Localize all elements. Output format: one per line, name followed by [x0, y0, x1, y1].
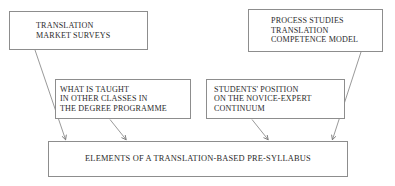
node-process-studies[interactable]: PROCESS STUDIES TRANSLATION COMPETENCE M… [248, 9, 383, 52]
node-line: IN OTHER CLASSES IN [60, 94, 190, 104]
clipped-caption-strip [0, 0, 395, 5]
node-pre-syllabus[interactable]: ELEMENTS OF A TRANSLATION-BASED PRE-SYLL… [48, 141, 348, 177]
node-translation-market-surveys[interactable]: TRANSLATION MARKET SURVEYS [9, 11, 148, 50]
node-line: CONTINUUM [214, 104, 344, 114]
connector-what-is-taught-to-pre-syllabus [110, 120, 126, 140]
node-line: ELEMENTS OF A TRANSLATION-BASED PRE-SYLL… [85, 154, 311, 164]
node-students-position[interactable]: STUDENTS' POSITION ON THE NOVICE-EXPERT … [206, 79, 345, 119]
node-line: TRANSLATION [36, 21, 147, 31]
connector-students-position-to-pre-syllabus [252, 120, 268, 140]
diagram-canvas: TRANSLATION MARKET SURVEYS PROCESS STUDI… [0, 0, 395, 186]
node-line: TRANSLATION [271, 26, 382, 36]
node-line: ON THE NOVICE-EXPERT [214, 94, 344, 104]
node-line: MARKET SURVEYS [36, 31, 147, 41]
node-what-is-taught[interactable]: WHAT IS TAUGHT IN OTHER CLASSES IN THE D… [55, 79, 191, 119]
node-line: THE DEGREE PROGRAMME [60, 104, 190, 114]
node-line: WHAT IS TAUGHT [60, 85, 190, 95]
node-line: PROCESS STUDIES [271, 16, 382, 26]
node-line: STUDENTS' POSITION [214, 85, 344, 95]
node-line: COMPETENCE MODEL [271, 35, 382, 45]
